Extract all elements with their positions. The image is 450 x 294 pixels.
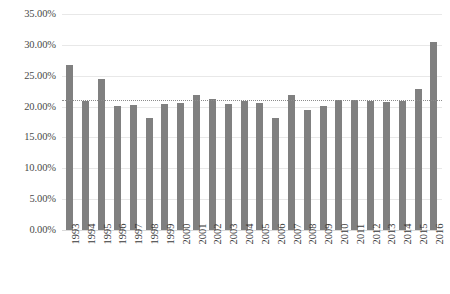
bar-slot	[426, 14, 442, 230]
bar-slot	[157, 14, 173, 230]
x-axis-tick: 1995	[94, 232, 110, 278]
bar[interactable]	[82, 101, 89, 230]
x-axis-tick: 2009	[315, 232, 331, 278]
bar[interactable]	[114, 106, 121, 230]
bar[interactable]	[209, 99, 216, 230]
x-axis: 1993199419951996199719981999200020012002…	[62, 232, 442, 278]
x-axis-tick: 2006	[268, 232, 284, 278]
x-axis-tick: 2001	[189, 232, 205, 278]
x-axis-tick: 1993	[62, 232, 78, 278]
bar[interactable]	[177, 103, 184, 230]
y-axis-tick-label: 5.00%	[0, 194, 56, 205]
x-axis-tick: 2015	[410, 232, 426, 278]
bar[interactable]	[130, 105, 137, 230]
x-axis-tick: 2002	[204, 232, 220, 278]
x-axis-tick: 1994	[78, 232, 94, 278]
x-axis-tick-label: 2016	[434, 224, 445, 245]
bar-slot	[141, 14, 157, 230]
bar-slot	[347, 14, 363, 230]
bar-series	[62, 14, 442, 230]
average-trendline	[62, 100, 442, 101]
bar-slot	[410, 14, 426, 230]
bar[interactable]	[225, 104, 232, 231]
bar[interactable]	[320, 106, 327, 230]
bar-slot	[331, 14, 347, 230]
y-axis-tick-label: 0.00%	[0, 225, 56, 236]
x-axis-tick: 1999	[157, 232, 173, 278]
bar-slot	[299, 14, 315, 230]
x-axis-tick: 2004	[236, 232, 252, 278]
y-axis-tick-label: 35.00%	[0, 9, 56, 20]
x-axis-tick: 2000	[173, 232, 189, 278]
y-axis-tick-label: 20.00%	[0, 102, 56, 113]
bar[interactable]	[193, 95, 200, 230]
x-axis-tick: 2016	[426, 232, 442, 278]
bar-slot	[268, 14, 284, 230]
bar-slot	[204, 14, 220, 230]
x-axis-tick: 2011	[347, 232, 363, 278]
bar-slot	[220, 14, 236, 230]
bar-chart: 35.00% 30.00% 25.00% 20.00% 15.00% 10.00…	[0, 0, 450, 294]
bar-slot	[94, 14, 110, 230]
x-axis-tick: 2010	[331, 232, 347, 278]
bar[interactable]	[415, 89, 422, 230]
bar[interactable]	[66, 65, 73, 230]
bar-slot	[394, 14, 410, 230]
bar[interactable]	[383, 102, 390, 230]
bar[interactable]	[146, 118, 153, 230]
bar[interactable]	[98, 79, 105, 230]
y-axis-tick-label: 15.00%	[0, 132, 56, 143]
bar[interactable]	[399, 101, 406, 230]
x-axis-tick: 2007	[284, 232, 300, 278]
x-axis-tick: 1998	[141, 232, 157, 278]
bar[interactable]	[430, 42, 437, 230]
bar-slot	[173, 14, 189, 230]
bar-slot	[62, 14, 78, 230]
bar[interactable]	[351, 100, 358, 230]
bar-slot	[284, 14, 300, 230]
bar[interactable]	[272, 118, 279, 230]
bar-slot	[379, 14, 395, 230]
x-axis-tick: 2005	[252, 232, 268, 278]
bar[interactable]	[241, 101, 248, 230]
bar-slot	[78, 14, 94, 230]
bar[interactable]	[161, 104, 168, 231]
bar[interactable]	[367, 101, 374, 230]
plot-area	[62, 14, 442, 230]
bar[interactable]	[304, 110, 311, 230]
bar-slot	[109, 14, 125, 230]
x-axis-tick: 2013	[379, 232, 395, 278]
x-axis-tick: 2012	[363, 232, 379, 278]
x-axis-tick: 1996	[109, 232, 125, 278]
y-axis-tick-label: 30.00%	[0, 40, 56, 51]
bar[interactable]	[288, 95, 295, 230]
y-axis-tick-label: 25.00%	[0, 71, 56, 82]
bar-slot	[363, 14, 379, 230]
bar-slot	[315, 14, 331, 230]
figure-caption	[6, 283, 336, 293]
x-axis-tick: 2008	[299, 232, 315, 278]
bar[interactable]	[256, 103, 263, 230]
x-axis-tick: 2014	[394, 232, 410, 278]
bar-slot	[252, 14, 268, 230]
bar-slot	[236, 14, 252, 230]
x-axis-tick: 1997	[125, 232, 141, 278]
bar-slot	[189, 14, 205, 230]
x-axis-tick: 2003	[220, 232, 236, 278]
y-axis-tick-label: 10.00%	[0, 163, 56, 174]
bar[interactable]	[335, 100, 342, 230]
bar-slot	[125, 14, 141, 230]
